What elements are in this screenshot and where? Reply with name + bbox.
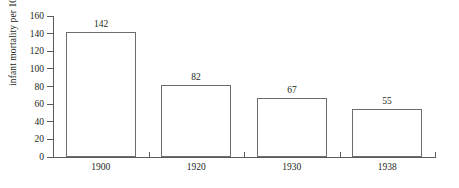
bar [352,109,422,157]
y-axis-tick [47,104,54,105]
bar [161,85,231,157]
y-axis-tick [47,121,54,122]
y-axis-tick-label: 100 [16,64,44,74]
y-axis-tick [47,51,54,52]
y-axis-tick [47,157,54,158]
bar-value-label: 67 [257,85,327,96]
x-axis-end-tick [435,152,436,158]
y-axis-tick [47,16,54,17]
bar-value-label: 55 [352,96,422,107]
y-axis-tick [47,139,54,140]
y-axis-tick-label: 120 [16,46,44,56]
x-axis-tick [340,152,341,158]
y-axis-tick-label: 40 [16,117,44,127]
y-axis-tick-label: 60 [16,99,44,109]
y-axis-tick-label: 80 [16,82,44,92]
x-axis-tick-label: 1938 [352,162,422,173]
bar-value-label: 142 [66,19,136,30]
x-axis-tick [149,152,150,158]
y-axis-line [53,16,54,158]
x-axis-tick-label: 1920 [161,162,231,173]
x-axis-tick-label: 1900 [66,162,136,173]
bar [66,32,136,157]
bar [257,98,327,157]
x-axis-tick [244,152,245,158]
y-axis-tick [47,86,54,87]
bar-chart: infant mortality per 1000 02040608010012… [0,0,459,188]
bar-value-label: 82 [161,72,231,83]
x-axis-tick-label: 1930 [257,162,327,173]
y-axis-tick-label: 140 [16,29,44,39]
y-axis-tick-label: 20 [16,134,44,144]
y-axis-tick-label: 0 [16,152,44,162]
y-axis-tick [47,33,54,34]
y-axis-tick-label: 160 [16,11,44,21]
y-axis-tick [47,68,54,69]
